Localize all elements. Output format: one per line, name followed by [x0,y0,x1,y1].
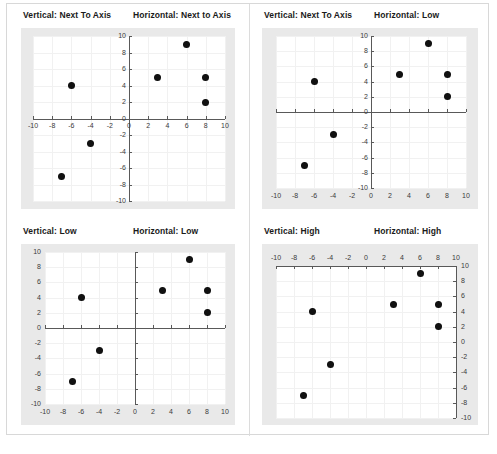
y-axis-tick-label: 8 [352,47,368,54]
x-axis-tick-label: -6 [304,254,320,261]
y-axis-tick-label: 0 [461,338,477,345]
y-axis-tick [135,282,138,283]
x-axis-tick [466,109,467,112]
plot-area: -10-8-6-4-20246810-10-8-6-4-20246810 [276,266,456,418]
y-axis-tick [453,357,456,358]
y-axis-tick [371,82,374,83]
chart-area: -10-8-6-4-20246810-10-8-6-4-20246810 [21,244,235,425]
x-axis-tick-label: -10 [37,408,53,415]
data-point [329,131,336,138]
chart-top-left: Vertical: Next To Axis Horizontal: Next … [7,4,249,220]
x-axis-tick-label: -2 [340,254,356,261]
data-point [443,93,450,100]
y-axis-tick-label: -2 [461,353,477,360]
gridline-vertical [225,252,226,404]
x-axis-tick-label: 0 [358,254,374,261]
data-point [203,286,210,293]
data-point [202,98,209,105]
y-axis-tick-label: -2 [352,123,368,130]
y-axis-tick [453,296,456,297]
y-axis-tick [129,168,132,169]
y-axis-tick-label: -6 [110,164,126,171]
gridline-horizontal [276,312,456,313]
x-axis-tick-label: 2 [145,408,161,415]
x-axis-tick [348,266,349,269]
y-axis-tick-label: 6 [25,278,41,285]
y-axis-tick [453,327,456,328]
x-axis-tick [295,109,296,112]
x-axis-tick [420,266,421,269]
chart-area: -10-8-6-4-20246810-10-8-6-4-20246810 [262,244,478,425]
y-axis-tick [453,372,456,373]
y-axis-tick-label: 2 [461,323,477,330]
x-axis-tick-label: -6 [306,192,322,199]
gridline-vertical [466,36,467,188]
y-axis-tick-label: -6 [352,154,368,161]
x-axis-tick [45,325,46,328]
y-axis-tick [129,152,132,153]
y-axis-tick-label: 4 [25,294,41,301]
y-axis-tick [135,389,138,390]
x-axis-tick-label: 2 [382,192,398,199]
x-axis-tick-label: 8 [199,408,215,415]
gridline-horizontal [276,388,456,389]
y-axis-tick-label: -10 [110,197,126,204]
y-axis-tick-label: 2 [110,98,126,105]
y-axis-tick [129,69,132,70]
y-axis-tick-label: -4 [352,138,368,145]
chart-title-row: Vertical: Next To Axis Horizontal: Next … [7,10,249,24]
x-axis-tick-label: -6 [73,408,89,415]
vertical-title: Vertical: High [264,226,320,236]
y-axis-tick [129,201,132,202]
chart-title-row: Vertical: High Horizontal: High [250,226,490,240]
y-axis-tick [129,86,132,87]
y-axis-tick-label: -8 [461,399,477,406]
x-axis-tick [153,325,154,328]
x-axis-tick [409,109,410,112]
y-axis-tick-label: -6 [25,370,41,377]
y-axis-tick [129,102,132,103]
x-axis-tick-label: -4 [83,122,99,129]
x-axis-tick-label: 0 [363,192,379,199]
y-axis-tick-label: 4 [352,78,368,85]
data-point [308,308,315,315]
y-axis-tick-label: 10 [110,32,126,39]
x-axis-tick-label: 4 [394,254,410,261]
y-axis-tick [371,112,374,113]
data-point [326,361,333,368]
y-axis-tick-label: -10 [461,414,477,421]
gridline-horizontal [276,281,456,282]
y-axis-tick [129,135,132,136]
y-axis-tick [453,388,456,389]
x-axis-tick-label: -2 [109,408,125,415]
data-point [202,74,209,81]
horizontal-title: Horizontal: Low [374,10,439,20]
gridline-vertical [225,36,226,201]
y-axis-tick [371,66,374,67]
y-axis-tick [371,127,374,128]
x-axis-tick-label: 6 [181,408,197,415]
x-axis-tick [189,325,190,328]
x-axis-tick [384,266,385,269]
x-axis-tick [117,325,118,328]
y-axis-tick [453,342,456,343]
chart-bottom-left: Vertical: Low Horizontal: Low -10-8-6-4-… [7,220,249,436]
x-axis-tick-label: -8 [287,192,303,199]
data-point [203,309,210,316]
y-axis-tick-label: 6 [110,65,126,72]
data-point [416,270,423,277]
y-axis-tick-label: -10 [352,184,368,191]
y-axis-tick [371,97,374,98]
x-axis-tick-label: -6 [63,122,79,129]
y-axis-tick-label: 8 [461,277,477,284]
plot-area: -10-8-6-4-20246810-10-8-6-4-20246810 [33,36,225,201]
data-point [95,347,102,354]
y-axis-tick [371,173,374,174]
data-point [154,74,161,81]
x-axis-tick [333,109,334,112]
y-axis-tick [135,374,138,375]
y-axis-tick-label: -10 [25,400,41,407]
data-point [389,300,396,307]
gridline-horizontal [276,372,456,373]
y-axis-tick [371,158,374,159]
